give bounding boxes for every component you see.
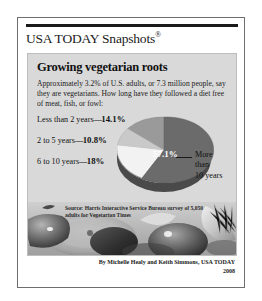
pie-label-less-than-2-years: Less than 2 years—14.1% xyxy=(37,115,126,124)
callout-line-2: than xyxy=(195,160,209,169)
pie-label-6-to-10-years: 6 to 10 years—18% xyxy=(37,157,104,166)
snapshot-panel: Growing vegetarian roots Approximately 3… xyxy=(27,53,237,256)
masthead-rule xyxy=(26,24,238,27)
pie-chart: Less than 2 years—14.1% 2 to 5 years—10.… xyxy=(28,112,236,204)
pie-label-2-to-5-years: 2 to 5 years—10.8% xyxy=(37,136,107,145)
leader-dash-1: — xyxy=(75,136,83,145)
pie-value-1: 10.8% xyxy=(83,135,107,145)
leader-dash-2: — xyxy=(79,157,87,166)
callout-line-3: 10 years xyxy=(195,171,223,180)
chart-title: Growing vegetarian roots xyxy=(37,61,236,75)
masthead: USA TODAY Snapshots® xyxy=(26,24,238,46)
pie-label-text-0: Less than 2 years xyxy=(37,115,94,124)
pie-label-more-than-10-years: Morethan10 years xyxy=(195,150,223,181)
snapshot-frame: USA TODAY Snapshots® Growing vegetarian … xyxy=(17,17,245,288)
masthead-brand-title: USA TODAY Snapshots® xyxy=(26,30,238,46)
pie-value-more-than-10-years: 57.1% xyxy=(153,149,178,159)
pie-value-2: 18% xyxy=(87,156,105,166)
masthead-brand-text: USA TODAY Snapshots xyxy=(26,31,155,46)
pie-label-text-1: 2 to 5 years xyxy=(37,136,75,145)
byline-year: 2008 xyxy=(99,267,235,276)
source-note: Source: Harris Interactive Service Burea… xyxy=(65,205,205,220)
byline-credit: By Michelle Healy and Keith Simmons, USA… xyxy=(99,259,235,265)
chart-subtitle: Approximately 3.2% of U.S. adults, or 7.… xyxy=(37,79,227,109)
callout-line-1: More xyxy=(195,150,213,159)
callout-leader-line xyxy=(176,157,192,158)
registered-trademark-icon: ® xyxy=(155,30,161,39)
pie-label-text-2: 6 to 10 years xyxy=(37,157,79,166)
byline: By Michelle Healy and Keith Simmons, USA… xyxy=(99,258,235,275)
